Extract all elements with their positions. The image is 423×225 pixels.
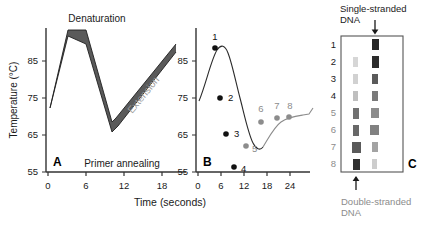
panel-b-point-label-6: 6 (258, 103, 263, 114)
gel-band-ds-2 (353, 57, 358, 67)
gel-band-ss-8 (372, 159, 377, 169)
gel-lane-label-2: 2 (331, 56, 336, 67)
gel-band-ss-5 (371, 108, 379, 118)
panel-a-letter: A (53, 155, 62, 169)
panel-b-ytick-85: 85 (177, 55, 188, 66)
gel-band-ss-7 (372, 142, 378, 152)
panel-b-point-3 (223, 131, 229, 137)
panel-b-xtick-0: 0 (195, 180, 200, 191)
gel-band-ds-7 (352, 142, 361, 153)
panel-b-ytick-55: 55 (177, 166, 188, 177)
panel-b-ytick-75: 75 (177, 92, 188, 103)
gel-band-ss-3 (372, 74, 378, 84)
panel-b-point-label-3: 3 (234, 128, 239, 139)
panel-a-xtick-12: 12 (119, 180, 130, 191)
panel-a-ytick-85: 85 (27, 55, 38, 66)
panel-b-point-label-5: 5 (252, 143, 257, 154)
panel-b-point-4 (231, 164, 237, 170)
gel-band-ds-8 (353, 159, 360, 170)
panel-b-letter: B (203, 155, 212, 169)
panel-a-ytick-55: 55 (27, 166, 38, 177)
panel-b-point-label-2: 2 (228, 92, 233, 103)
gel-lane-label-4: 4 (331, 90, 336, 101)
panel-a-ytick-65: 65 (27, 129, 38, 140)
gel-band-ss-2 (372, 56, 379, 68)
panel-a-xtick-6: 6 (83, 180, 88, 191)
gel-lane-label-1: 1 (331, 39, 336, 50)
panel-b-point-1 (212, 45, 218, 51)
gel-lane-label-3: 3 (331, 73, 336, 84)
panel-a-ytick-75: 75 (27, 92, 38, 103)
gel-band-ss-1 (372, 39, 379, 50)
panel-b-point-label-4: 4 (241, 163, 246, 174)
gel-band-ds-5 (353, 108, 359, 119)
panel-b-point-label-1: 1 (212, 31, 217, 42)
gel-band-ds-3 (353, 74, 358, 84)
panel-b-point-label-8: 8 (287, 100, 292, 111)
panel-a-y-axis-label: Temperature (°C) (8, 62, 19, 139)
gel-lane-label-6: 6 (331, 124, 336, 135)
panel-b-point-7 (274, 115, 280, 121)
panel-a-primer-annealing-label: Primer annealing (84, 158, 160, 169)
gel-lane-label-8: 8 (331, 158, 336, 169)
shared-x-axis-label: Time (seconds) (134, 196, 206, 208)
pcr-thermal-cycling-figure: 55 65 75 85 0 6 12 18 Temperature (°C) D… (0, 0, 423, 225)
panel-b-ytick-65: 65 (177, 129, 188, 140)
gel-band-ds-4 (353, 91, 358, 101)
panel-a-xtick-18: 18 (157, 180, 168, 191)
panel-b-point-5 (243, 143, 249, 149)
gel-band-ds-6 (353, 125, 359, 136)
panel-b-point-8 (286, 114, 292, 120)
panel-b-xtick-18: 18 (262, 180, 273, 191)
panel-b-xtick-6: 6 (218, 180, 223, 191)
panel-b-point-2 (217, 95, 223, 101)
panel-b-xtick-24: 24 (285, 180, 296, 191)
panel-b-xtick-12: 12 (239, 180, 250, 191)
gel-band-ss-4 (372, 91, 378, 101)
gel-lane-label-7: 7 (331, 141, 336, 152)
panel-b-point-6 (258, 119, 264, 125)
panel-a-denaturation-label: Denaturation (68, 13, 125, 24)
panel-c-letter: C (408, 157, 417, 171)
panel-a-xtick-0: 0 (45, 180, 50, 191)
gel-lane-label-5: 5 (331, 107, 336, 118)
gel-band-ss-6 (370, 125, 379, 135)
panel-b-point-label-7: 7 (274, 100, 279, 111)
